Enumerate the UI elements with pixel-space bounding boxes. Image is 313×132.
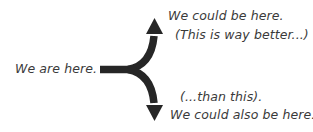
- arrowhead-down-icon: [146, 105, 163, 121]
- branch-up-label: We could be here.: [168, 10, 284, 23]
- arrowhead-up-icon: [146, 18, 163, 34]
- arrow-branch-up: [128, 36, 154, 70]
- branch-up-note: (This is way better...): [175, 29, 309, 42]
- arrow-branch-down: [128, 70, 154, 104]
- branch-down-note: (...than this).: [180, 91, 262, 104]
- branch-down-label: We could also be here.: [170, 109, 313, 122]
- origin-label: We are here.: [15, 63, 97, 76]
- fork-arrow-shape: [100, 18, 163, 121]
